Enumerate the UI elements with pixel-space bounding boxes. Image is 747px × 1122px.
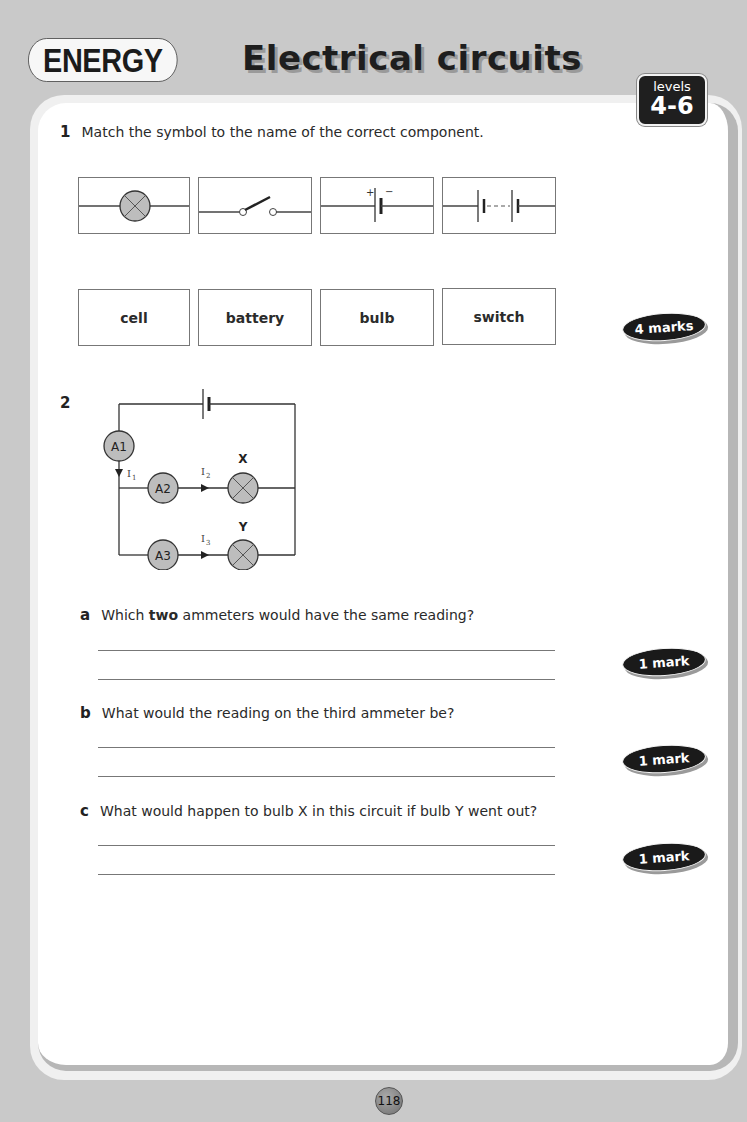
svg-text:3: 3 <box>206 539 210 547</box>
question-text: Match the symbol to the name of the corr… <box>82 124 484 140</box>
svg-text:A2: A2 <box>155 482 171 496</box>
bulb-symbol-icon <box>79 178 189 233</box>
answer-line-2b-1[interactable] <box>98 747 555 748</box>
symbol-box-bulb <box>78 177 190 234</box>
svg-text:−: − <box>385 186 393 197</box>
question-2a-text: Which two ammeters would have the same r… <box>101 607 474 623</box>
svg-text:2: 2 <box>206 472 210 480</box>
worksheet-panel <box>38 103 738 1071</box>
cell-symbol-icon: + − <box>321 178 433 233</box>
answer-line-2a-2[interactable] <box>98 679 555 680</box>
component-name-bulb[interactable]: bulb <box>320 289 434 346</box>
svg-text:+: + <box>366 187 374 198</box>
answer-line-2b-2[interactable] <box>98 776 555 777</box>
component-name-battery[interactable]: battery <box>198 289 312 346</box>
bulb-x <box>228 473 258 503</box>
symbol-box-cell: + − <box>320 177 434 234</box>
question-2c-text: What would happen to bulb X in this circ… <box>100 803 537 819</box>
battery-symbol-icon <box>443 178 555 233</box>
component-name-cell[interactable]: cell <box>78 289 190 346</box>
svg-text:1: 1 <box>132 474 136 482</box>
answer-line-2c-2[interactable] <box>98 874 555 875</box>
part-label-a: a <box>80 606 90 624</box>
svg-text:A1: A1 <box>111 440 127 454</box>
svg-text:I: I <box>127 468 131 479</box>
svg-text:A3: A3 <box>155 549 171 563</box>
question-2b-text: What would the reading on the third amme… <box>102 705 455 721</box>
ammeter-a2: A2 <box>148 473 178 503</box>
svg-text:X: X <box>238 452 248 466</box>
open-switch-symbol-icon <box>199 178 311 233</box>
answer-line-2a-1[interactable] <box>98 650 555 651</box>
symbol-box-battery <box>442 177 556 234</box>
question-2c: c What would happen to bulb X in this ci… <box>80 801 537 820</box>
symbol-box-switch <box>198 177 312 234</box>
question-1-prompt: 1 Match the symbol to the name of the co… <box>60 122 484 141</box>
part-label-c: c <box>80 802 89 820</box>
component-name-switch[interactable]: switch <box>442 288 556 345</box>
page-title: Electrical circuits <box>242 38 582 78</box>
levels-badge: levels 4-6 <box>637 74 707 126</box>
topic-label: ENERGY <box>28 38 178 82</box>
parallel-circuit-diagram: A1 I 1 A2 I 2 X A3 I 3 Y <box>95 385 305 570</box>
svg-text:Y: Y <box>238 520 248 534</box>
question-number: 1 <box>60 123 70 141</box>
answer-line-2c-1[interactable] <box>98 845 555 846</box>
question-2a: a Which two ammeters would have the same… <box>80 605 474 624</box>
page-number: 118 <box>375 1087 403 1115</box>
levels-range: 4-6 <box>639 94 705 118</box>
bulb-y <box>228 540 258 570</box>
part-label-b: b <box>80 704 91 722</box>
svg-text:I: I <box>201 533 205 544</box>
svg-text:I: I <box>201 466 205 477</box>
ammeter-a3: A3 <box>148 540 178 570</box>
question-2-number: 2 <box>60 394 70 412</box>
ammeter-a1: A1 <box>104 431 134 461</box>
question-2b: b What would the reading on the third am… <box>80 703 454 722</box>
